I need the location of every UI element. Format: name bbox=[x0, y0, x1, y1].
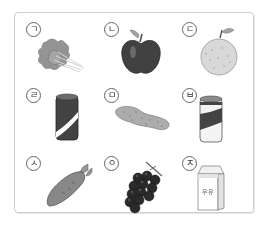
item-apple: ㄴ bbox=[102, 22, 180, 88]
item-carrot: ㅅ bbox=[24, 156, 102, 222]
item-can-dark: ㄹ bbox=[24, 88, 102, 154]
item-grapes: ㅇ bbox=[102, 156, 180, 222]
carrot-icon bbox=[24, 156, 102, 222]
spinach-icon bbox=[24, 22, 102, 88]
milk-carton-icon: 우유 bbox=[180, 156, 258, 222]
pear-icon bbox=[180, 22, 258, 88]
soda-can-icon bbox=[180, 88, 258, 154]
apple-icon bbox=[102, 22, 180, 88]
soda-can-icon bbox=[24, 88, 102, 154]
item-spinach: ㄱ bbox=[24, 22, 102, 88]
milk-label: 우유 bbox=[202, 188, 214, 196]
item-can-light: ㅂ bbox=[180, 88, 258, 154]
item-milk-carton: ㅈ 우유 bbox=[180, 156, 258, 222]
grapes-icon bbox=[102, 156, 180, 222]
item-pear: ㄷ bbox=[180, 22, 258, 88]
cucumber-icon bbox=[102, 88, 180, 154]
item-cucumber: ㅁ bbox=[102, 88, 180, 154]
